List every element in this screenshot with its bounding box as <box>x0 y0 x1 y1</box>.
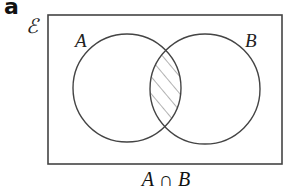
set-a-label: A <box>75 30 87 52</box>
venn-diagram <box>0 0 288 193</box>
diagram-caption: A ∩ B <box>0 168 288 191</box>
set-b-label: B <box>245 30 257 52</box>
